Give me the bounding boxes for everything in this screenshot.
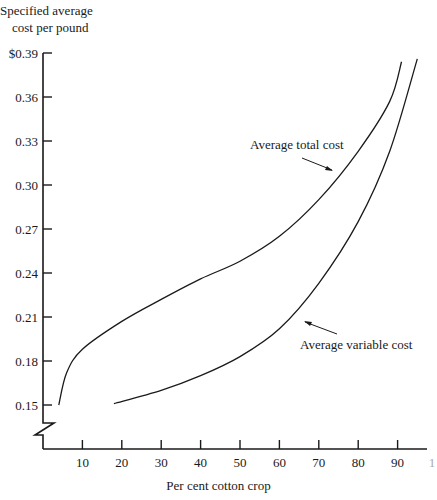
chart-plot-area: 0.150.180.210.240.270.300.330.36$0.39102…: [0, 0, 437, 500]
x-tick-label: 1: [429, 455, 436, 470]
y-tick-label: 0.27: [15, 222, 38, 237]
annotation-average-variable-cost: Average variable cost: [300, 337, 413, 352]
y-axis-line-with-break: [35, 53, 54, 449]
x-tick-label: 80: [352, 455, 365, 470]
x-tick-label: 90: [391, 455, 404, 470]
y-tick-label: 0.15: [15, 398, 38, 413]
x-tick-label: 70: [312, 455, 325, 470]
x-tick-label: 20: [115, 455, 128, 470]
x-tick-label: 30: [155, 455, 168, 470]
x-tick-label: 60: [273, 455, 286, 470]
x-axis-title: Per cent cotton crop: [0, 478, 437, 494]
arrowhead-icon: [304, 321, 312, 326]
x-tick-label: 10: [76, 455, 89, 470]
x-tick-label: 50: [234, 455, 247, 470]
y-tick-label: 0.24: [15, 266, 38, 281]
average-total-cost-curve: [59, 62, 402, 405]
x-tick-label: 40: [194, 455, 207, 470]
y-tick-label: $0.39: [9, 46, 38, 61]
y-tick-label: 0.33: [15, 134, 38, 149]
y-tick-label: 0.21: [15, 310, 38, 325]
arrowhead-icon: [325, 166, 333, 171]
y-tick-label: 0.18: [15, 354, 38, 369]
annotation-average-total-cost: Average total cost: [250, 137, 344, 152]
y-tick-label: 0.36: [15, 90, 38, 105]
y-tick-label: 0.30: [15, 178, 38, 193]
